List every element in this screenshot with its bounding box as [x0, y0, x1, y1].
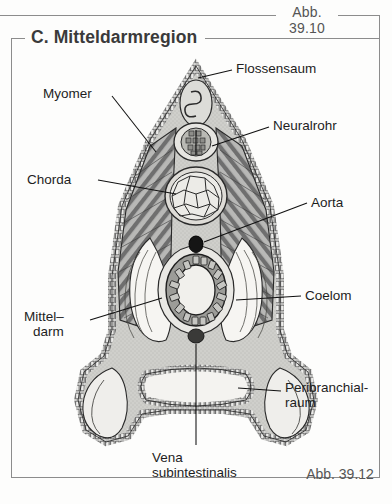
leader-myomer — [112, 96, 156, 152]
label-neuralrohr: Neuralrohr — [273, 118, 337, 133]
label-coelom: Coelom — [305, 288, 352, 303]
flossensaum-fin-ray — [180, 80, 212, 126]
neuralrohr-neural-tube — [174, 123, 218, 161]
aorta-vessel — [189, 236, 203, 253]
label-mitteldarm-line2: darm — [24, 324, 64, 339]
label-mitteldarm: Mittel– darm — [24, 309, 64, 339]
chorda-notochord — [165, 167, 227, 225]
label-peribranchialraum: Peribranchial- raum — [285, 380, 368, 410]
vena-subintestinalis-vessel — [188, 329, 204, 343]
label-vena-line1: Vena — [152, 450, 237, 465]
mitteldarm-midgut — [158, 246, 234, 334]
label-flossensaum: Flossensaum — [236, 61, 316, 76]
label-myomer: Myomer — [43, 86, 92, 101]
anatomy-illustration — [0, 0, 392, 504]
label-vena-line2: subintestinalis — [152, 465, 237, 480]
label-vena-subintestinalis: Vena subintestinalis — [152, 450, 237, 480]
label-mitteldarm-line1: Mittel– — [24, 309, 64, 324]
label-peribranchial-line2: raum — [285, 395, 368, 410]
figure-page: Abb. 39.10 Abb. 39.12 C. Mitteldarmregio… — [0, 0, 392, 504]
label-chorda: Chorda — [27, 172, 71, 187]
label-aorta: Aorta — [311, 195, 343, 210]
label-peribranchial-line1: Peribranchial- — [285, 380, 368, 395]
